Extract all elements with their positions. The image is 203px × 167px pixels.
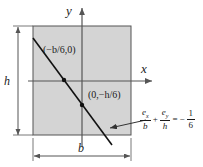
x-intercept-label: (−b/6,0) <box>43 45 76 55</box>
kern-region-figure: y x h b (−b/6,0) (0,−h/6) ex b + ey h = … <box>0 0 203 167</box>
height-dimension-label: h <box>4 75 10 87</box>
ex-subscript: x <box>146 113 149 119</box>
kern-equation: ex b + ey h = − 1 6 <box>139 108 196 131</box>
equation-term-ex-over-b: ex b <box>140 108 151 131</box>
x-axis-label: x <box>141 62 147 75</box>
width-dimension-label: b <box>78 142 84 154</box>
equation-term3-numerator: 1 <box>187 109 196 118</box>
equation-term1-numerator: ex <box>140 108 151 119</box>
equation-term1-denominator: b <box>141 122 150 131</box>
x-intercept-dot <box>62 78 66 82</box>
y-intercept-dot <box>80 103 84 107</box>
equation-minus-sign: − <box>180 115 185 124</box>
equation-plus-operator: + <box>153 115 158 124</box>
equation-term2-denominator: h <box>161 122 170 131</box>
figure-graphics <box>0 0 203 167</box>
y-axis-label: y <box>66 4 72 17</box>
equation-equals-operator: = <box>172 115 177 124</box>
y-intercept-label: (0,−h/6) <box>88 90 121 100</box>
ey-subscript: y <box>166 113 169 119</box>
equation-term-ey-over-h: ey h <box>160 108 171 131</box>
equation-term-one-sixth: 1 6 <box>187 109 196 130</box>
equation-term2-numerator: ey <box>160 108 171 119</box>
equation-term3-denominator: 6 <box>187 121 196 130</box>
